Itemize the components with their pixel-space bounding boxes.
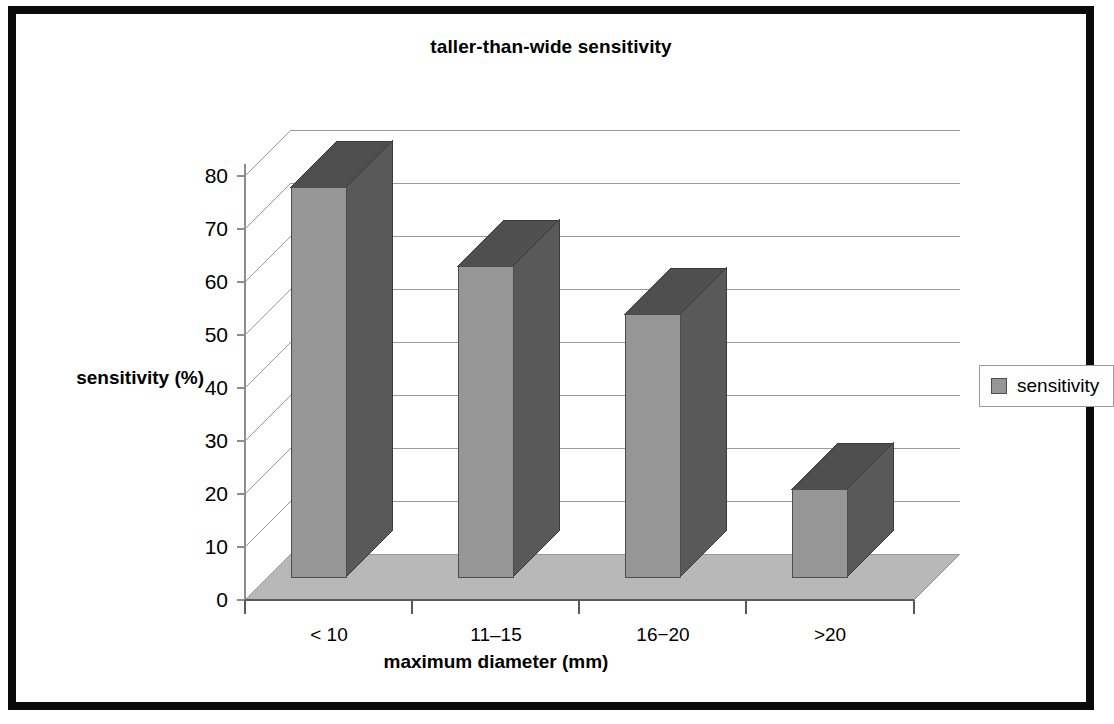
depth-connectors bbox=[245, 130, 291, 600]
bar-side-face bbox=[680, 268, 726, 577]
legend-label-sensitivity: sensitivity bbox=[1017, 375, 1099, 397]
x-tick-marks bbox=[245, 600, 914, 614]
bar-front-face bbox=[458, 266, 513, 577]
bar-side-face bbox=[346, 141, 392, 577]
y-tick-label-10: 10 bbox=[176, 535, 228, 559]
x-tick-label-2: 16−20 bbox=[636, 624, 689, 646]
y-tick-label-0: 0 bbox=[176, 588, 228, 612]
y-tick-label-50: 50 bbox=[176, 323, 228, 347]
y-tick-label-60: 60 bbox=[176, 270, 228, 294]
y-tick-label-80: 80 bbox=[176, 164, 228, 188]
y-tick-label-20: 20 bbox=[176, 482, 228, 506]
bar-front-face bbox=[291, 187, 346, 577]
x-axis-title: maximum diameter (mm) bbox=[236, 651, 756, 673]
bar-front-face bbox=[792, 489, 847, 577]
bar-column-0[interactable] bbox=[291, 141, 392, 577]
y-tick-label-30: 30 bbox=[176, 429, 228, 453]
x-tick-label-0: < 10 bbox=[310, 624, 348, 646]
y-tick-marks bbox=[237, 176, 245, 600]
chart-inner: taller-than-wide sensitivity bbox=[16, 14, 1086, 702]
x-tick-label-3: >20 bbox=[814, 624, 846, 646]
bar-column-2[interactable] bbox=[625, 268, 726, 577]
bar-column-1[interactable] bbox=[458, 220, 559, 577]
legend: sensitivity bbox=[979, 365, 1114, 407]
bar-front-face bbox=[625, 314, 680, 577]
legend-swatch-sensitivity bbox=[991, 378, 1007, 394]
chart-frame: taller-than-wide sensitivity bbox=[8, 6, 1094, 710]
x-tick-label-1: 11–15 bbox=[470, 624, 521, 646]
bar-side-face bbox=[513, 220, 559, 577]
y-tick-label-70: 70 bbox=[176, 217, 228, 241]
y-axis-title: sensitivity (%) bbox=[24, 367, 204, 389]
